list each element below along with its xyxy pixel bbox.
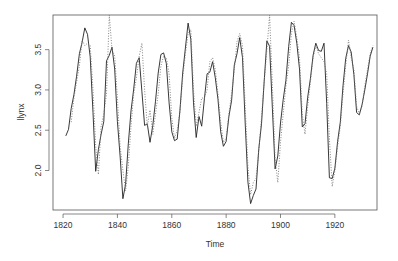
y-tick-label: 2.5 — [33, 124, 43, 136]
x-axis-label: Time — [206, 239, 225, 249]
series-group — [66, 15, 373, 204]
x-axis: 182018401860188019001920 — [54, 214, 345, 230]
y-axis-label: llynx — [16, 103, 26, 121]
y-tick-label: 2.0 — [33, 164, 43, 176]
x-tick-label: 1860 — [162, 220, 181, 230]
x-tick-label: 1880 — [217, 220, 236, 230]
x-tick-label: 1900 — [271, 220, 290, 230]
time-series-chart: 182018401860188019001920 2.02.53.03.5 Ti… — [0, 0, 398, 261]
x-tick-label: 1820 — [54, 220, 73, 230]
y-axis: 2.02.53.03.5 — [33, 43, 49, 176]
y-tick-label: 3.5 — [33, 43, 43, 55]
x-tick-label: 1920 — [325, 220, 344, 230]
series-line-observed — [66, 22, 373, 203]
y-tick-label: 3.0 — [33, 84, 43, 96]
plot-frame — [53, 15, 377, 210]
x-tick-label: 1840 — [108, 220, 127, 230]
